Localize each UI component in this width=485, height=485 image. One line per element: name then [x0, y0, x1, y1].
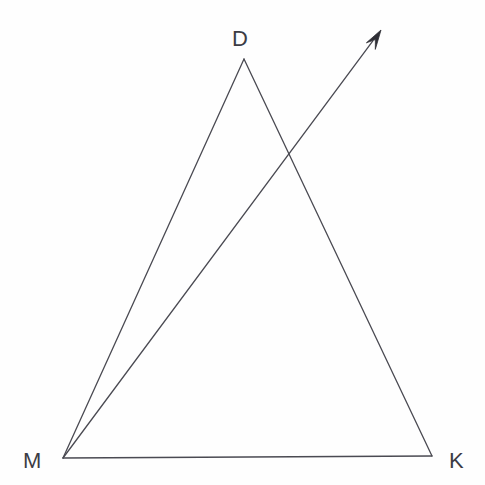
- figure-background: [0, 0, 485, 485]
- geometry-canvas: [0, 0, 485, 485]
- vertex-label-d: D: [232, 28, 248, 50]
- vertex-label-k: K: [449, 450, 464, 472]
- geometry-figure: D M K: [0, 0, 485, 485]
- vertex-label-m: M: [23, 450, 41, 472]
